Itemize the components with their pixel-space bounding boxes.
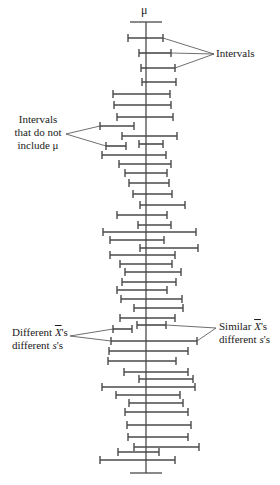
confidence-interval bbox=[100, 122, 134, 130]
confidence-interval bbox=[116, 391, 180, 399]
confidence-interval bbox=[127, 421, 191, 429]
confidence-interval bbox=[113, 90, 170, 98]
confidence-interval bbox=[139, 49, 171, 57]
confidence-interval bbox=[117, 286, 167, 294]
mu-label: μ bbox=[141, 4, 147, 17]
different-x-line1: Different X's bbox=[12, 326, 68, 339]
confidence-interval bbox=[102, 151, 166, 159]
confidence-interval bbox=[113, 325, 132, 333]
leader-line bbox=[70, 336, 111, 341]
not-include-mu-label: Intervals that do not include μ bbox=[10, 113, 66, 152]
intervals-label: Intervals bbox=[216, 47, 254, 60]
confidence-interval bbox=[140, 201, 185, 209]
confidence-interval bbox=[142, 78, 176, 86]
leader-line bbox=[175, 54, 214, 68]
similar-x-line1: Similar X's bbox=[219, 320, 270, 333]
confidence-interval bbox=[129, 399, 183, 407]
confidence-interval bbox=[111, 337, 197, 345]
not-include-line2: that do not bbox=[10, 126, 66, 139]
confidence-interval bbox=[122, 278, 176, 286]
confidence-interval bbox=[100, 456, 175, 464]
confidence-interval bbox=[139, 375, 193, 383]
leader-line bbox=[66, 126, 100, 134]
confidence-interval bbox=[119, 160, 171, 168]
confidence-interval bbox=[108, 357, 176, 365]
confidence-interval bbox=[121, 295, 182, 303]
confidence-interval bbox=[117, 113, 173, 121]
similar-x-label: Similar X's different s's bbox=[219, 320, 270, 346]
leader-line bbox=[171, 53, 214, 54]
confidence-interval bbox=[110, 251, 175, 259]
confidence-interval bbox=[125, 408, 188, 416]
different-x-label: Different X's different s's bbox=[12, 326, 68, 352]
confidence-interval bbox=[140, 244, 198, 252]
confidence-interval bbox=[129, 179, 169, 187]
not-include-line1: Intervals bbox=[10, 113, 66, 126]
different-s-line2: different s's bbox=[12, 339, 68, 352]
confidence-interval bbox=[114, 101, 171, 109]
confidence-interval bbox=[117, 211, 167, 219]
confidence-interval-diagram bbox=[0, 0, 280, 485]
leader-lines bbox=[66, 38, 216, 341]
leader-line bbox=[166, 325, 216, 328]
confidence-interval bbox=[120, 314, 175, 322]
confidence-interval bbox=[124, 368, 188, 376]
confidence-interval bbox=[122, 132, 177, 140]
confidence-interval bbox=[138, 221, 171, 229]
leader-line bbox=[66, 134, 106, 146]
confidence-interval bbox=[128, 433, 188, 441]
leader-line bbox=[70, 329, 113, 336]
similar-s-line2: different s's bbox=[219, 333, 270, 346]
confidence-interval bbox=[125, 268, 181, 276]
not-include-line3: include μ bbox=[10, 139, 66, 152]
confidence-interval bbox=[118, 448, 159, 456]
confidence-interval bbox=[103, 228, 196, 236]
confidence-interval bbox=[102, 383, 195, 391]
confidence-interval bbox=[109, 347, 188, 355]
intervals-group bbox=[100, 34, 199, 464]
confidence-interval bbox=[106, 142, 126, 150]
confidence-interval bbox=[134, 304, 183, 312]
confidence-interval bbox=[139, 140, 163, 148]
leader-line bbox=[197, 328, 216, 341]
confidence-interval bbox=[110, 236, 164, 244]
confidence-interval bbox=[134, 443, 199, 451]
confidence-interval bbox=[133, 190, 172, 198]
confidence-interval bbox=[137, 321, 166, 329]
